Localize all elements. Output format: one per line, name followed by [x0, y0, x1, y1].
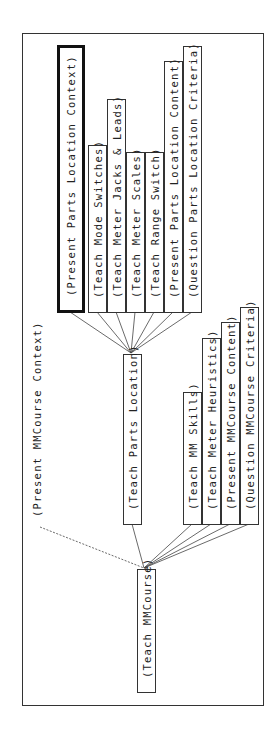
node-question-mmcourse-criteria[interactable]: (Question MMCourse Criteria): [240, 307, 259, 525]
node-label: (Present Parts Location Content): [168, 57, 179, 298]
node-present-mmcourse-content[interactable]: (Present MMCourse Content): [221, 322, 240, 525]
node-label: (Teach Parts Location): [127, 344, 138, 509]
node-label: (Teach Meter Heuristics): [206, 329, 217, 510]
node-present-parts-location-content[interactable]: (Present Parts Location Content): [164, 61, 183, 313]
node-label: (Present MMCourse Content): [225, 314, 236, 510]
node-label: (Teach Meter Jacks & Leads): [111, 94, 122, 297]
node-teach-parts-location[interactable]: (Teach Parts Location): [123, 354, 142, 525]
node-label: (Teach Range Switch): [149, 147, 160, 297]
node-question-parts-location-criteria[interactable]: (Question Parts Location Criteria): [183, 46, 202, 313]
node-label: (Teach MM Skills): [187, 382, 198, 510]
node-teach-meter-heuristics[interactable]: (Teach Meter Heuristics): [202, 338, 221, 525]
node-label: (Teach Mode Switches): [92, 140, 103, 298]
node-teach-meter-scales[interactable]: (Teach Meter Scales): [126, 152, 145, 313]
node-label: (Teach MMCourse): [141, 557, 152, 677]
node-teach-mode-switches[interactable]: (Teach Mode Switches): [88, 145, 107, 313]
node-teach-mmcourse[interactable]: (Teach MMCourse): [137, 569, 156, 693]
node-label: (Present Parts Location Context): [66, 55, 77, 296]
node-present-mmcourse-context[interactable]: (Present MMCourse Context): [31, 321, 43, 517]
node-teach-mm-skills[interactable]: (Teach MM Skills): [183, 392, 202, 525]
node-label: (Teach Meter Scales): [130, 147, 141, 297]
node-present-parts-location-context[interactable]: (Present Parts Location Context): [57, 45, 85, 313]
node-label: (Question MMCourse Criteria): [244, 299, 255, 510]
node-teach-range-switch[interactable]: (Teach Range Switch): [145, 152, 164, 313]
node-label: (Question Parts Location Criteria): [187, 42, 198, 298]
node-teach-meter-jacks-leads[interactable]: (Teach Meter Jacks & Leads): [107, 99, 126, 313]
